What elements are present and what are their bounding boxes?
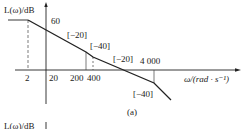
figure-caption: (a) [127,107,137,117]
tick-label-20: 20 [49,73,59,83]
y-axis-label: L(ω)/dB [4,5,34,15]
slope-label-2: [−40] [90,41,110,51]
tick-label-2: 2 [25,73,30,83]
tick-label-400: 400 [87,73,101,83]
slope-label-3: [−20] [113,54,133,64]
slope-label-1: [−20] [67,30,87,40]
x-axis-label: ω/(rad · s⁻¹) [184,74,229,84]
y-axis-arrow-icon [44,2,47,7]
next-figure-y-label: L(ω)/dB [4,121,34,129]
tick-label-4000: 4 000 [140,56,161,66]
tick-label-200: 200 [70,73,84,83]
x-axis-arrow-icon [235,68,241,71]
slope-label-4: [−40] [133,89,153,99]
gain-label: 60 [51,16,61,26]
bode-diagram: L(ω)/dB 60 [−20] [−40] [−20] 4 000 [−40]… [0,0,243,129]
